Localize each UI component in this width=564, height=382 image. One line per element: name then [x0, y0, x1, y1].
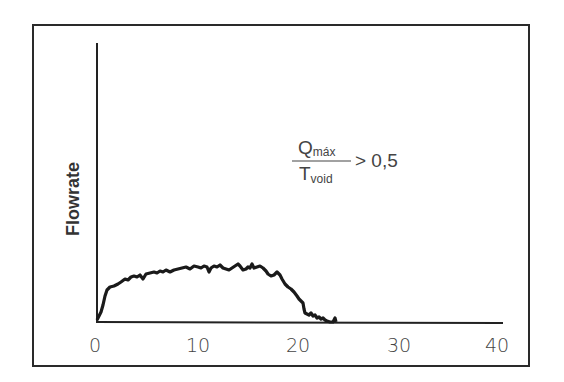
flowrate-curve [97, 264, 336, 322]
x-tick-10: 10 [186, 334, 210, 356]
svg-text:Tvoid: Tvoid [299, 163, 333, 186]
numerator-q: Q [298, 137, 313, 158]
denominator-t: T [299, 163, 311, 184]
svg-text:Qmáx: Qmáx [298, 137, 335, 159]
x-tick-30: 30 [387, 334, 411, 356]
flowrate-chart: Flowrate 0 10 20 30 40 Qmáx Tvoid > 0,5 [0, 0, 564, 382]
qmax-tvoid-annotation: Qmáx Tvoid > 0,5 [292, 137, 398, 186]
x-tick-40: 40 [485, 334, 509, 356]
denominator-sub: void [311, 172, 333, 186]
x-axis [96, 322, 503, 323]
y-axis-label: Flowrate [63, 162, 83, 236]
x-tick-0: 0 [89, 334, 101, 356]
numerator-sub: máx [313, 145, 336, 159]
x-tick-20: 20 [286, 334, 310, 356]
relation-text: > 0,5 [355, 150, 398, 171]
